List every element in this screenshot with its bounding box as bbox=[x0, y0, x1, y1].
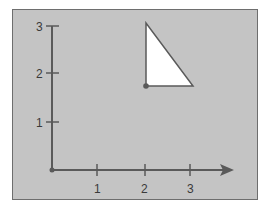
triangle-vertex-point bbox=[143, 83, 149, 89]
x-label-1: 1 bbox=[94, 182, 101, 196]
x-label-2: 2 bbox=[141, 182, 148, 196]
origin-point bbox=[50, 168, 55, 173]
y-label-3: 3 bbox=[36, 20, 43, 34]
coordinate-plane: 3 2 1 1 2 3 bbox=[0, 0, 265, 212]
x-label-3: 3 bbox=[187, 182, 194, 196]
y-label-1: 1 bbox=[36, 116, 43, 130]
triangle bbox=[146, 23, 193, 86]
y-label-2: 2 bbox=[36, 67, 43, 81]
